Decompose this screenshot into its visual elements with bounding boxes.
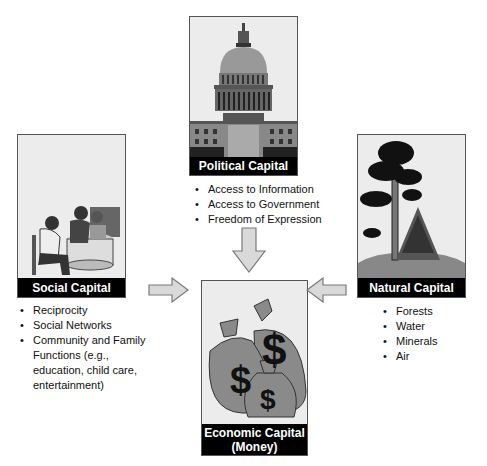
- svg-text:$: $: [230, 359, 251, 401]
- family-at-table-icon: [18, 135, 125, 280]
- list-item: Air: [380, 349, 438, 364]
- list-item: Minerals: [380, 334, 438, 349]
- economic-capital-label-line1: Economic Capital: [204, 426, 305, 440]
- money-bags-icon: $ $ $: [202, 281, 307, 425]
- social-capital-list: Reciprocity Social Networks Community an…: [17, 303, 167, 393]
- list-item: Community and Family Functions (e.g., ed…: [17, 333, 151, 393]
- list-item: Forests: [380, 304, 438, 319]
- social-capital-label: Social Capital: [18, 278, 125, 297]
- arrow-right-icon: [148, 277, 190, 303]
- political-capital-card: Political Capital: [189, 16, 298, 176]
- list-item: Water: [380, 319, 438, 334]
- list-item: Social Networks: [17, 318, 167, 333]
- economic-capital-label: Economic Capital (Money): [202, 424, 307, 455]
- natural-capital-label: Natural Capital: [358, 278, 465, 297]
- arrow-left-icon: [305, 277, 347, 303]
- list-item: Freedom of Expression: [192, 212, 322, 227]
- capitol-building-icon: [190, 17, 297, 159]
- svg-text:$: $: [260, 384, 276, 415]
- political-capital-label: Political Capital: [190, 157, 297, 175]
- natural-capital-list: Forests Water Minerals Air: [380, 304, 438, 364]
- svg-text:$: $: [262, 325, 286, 374]
- list-item: Reciprocity: [17, 303, 167, 318]
- economic-capital-card: $ $ $ Economic Capital (Money): [201, 280, 308, 456]
- social-capital-card: Social Capital: [17, 134, 126, 298]
- list-item: Access to Government: [192, 197, 322, 212]
- natural-capital-card: Natural Capital: [357, 134, 466, 298]
- trees-icon: [358, 135, 465, 280]
- list-item: Access to Information: [192, 182, 322, 197]
- economic-capital-label-line2: (Money): [232, 440, 278, 454]
- political-capital-list: Access to Information Access to Governme…: [192, 182, 322, 227]
- arrow-down-icon: [231, 227, 267, 274]
